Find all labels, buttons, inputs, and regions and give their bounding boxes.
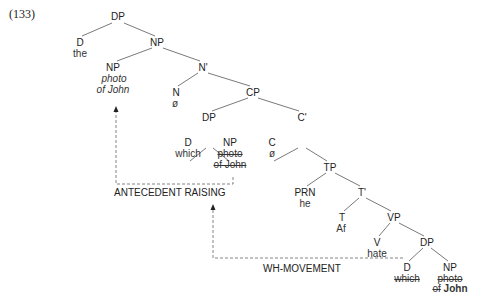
node-t: T [339,212,345,223]
word-the: the [73,48,87,59]
node-t-bar: T' [358,187,366,198]
node-np: NP [150,37,164,48]
word-photo-spec: photo [217,148,242,159]
node-cp: CP [246,87,260,98]
node-n: N [172,87,179,98]
node-prn: PRN [294,187,315,198]
node-d-which-spec: D [184,137,191,148]
node-np-spec: NP [223,137,237,148]
node-d: D [76,37,83,48]
word-null-c: ø [269,148,275,159]
word-of-obj: of [432,283,440,294]
word-null-n: ø [172,98,178,109]
word-of-john-antecedent: of John [97,84,130,95]
word-af: Af [336,223,345,234]
node-c-bar: C' [297,112,306,123]
antecedent-raising-label: ANTECEDENT RAISING [114,187,226,198]
word-of-john-spec: of John [214,159,247,170]
word-which-spec: which [175,148,201,159]
node-c: C [268,137,275,148]
node-v: V [374,237,381,248]
word-which-obj: which [394,273,420,284]
word-hate: hate [367,248,386,259]
node-np-obj: NP [443,262,457,273]
node-dp-spec: DP [202,112,216,123]
node-np-antecedent: NP [106,62,120,73]
word-john-obj: John [444,283,468,294]
node-tp: TP [324,162,337,173]
node-d-which-obj: D [403,262,410,273]
word-he: he [299,198,310,209]
node-dp-obj: DP [420,237,434,248]
wh-movement-label: WH-MOVEMENT [263,263,341,274]
node-n-bar: N' [198,62,207,73]
word-photo-antecedent: photo [101,73,126,84]
node-dp-root: DP [111,11,125,22]
word-of-john-obj: of John [432,283,467,294]
node-vp: VP [387,212,400,223]
